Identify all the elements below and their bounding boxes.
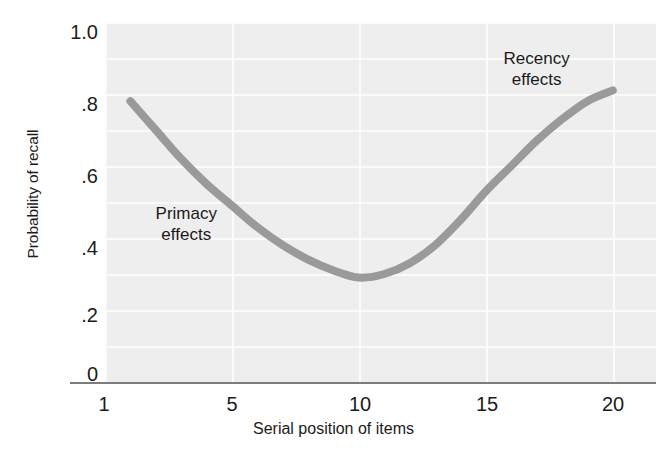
y-tick-label: .4 — [54, 238, 98, 258]
plot-area: Primacy effects Recency effects — [105, 22, 656, 382]
x-tick-label: 15 — [457, 392, 517, 416]
y-tick-label: 1.0 — [54, 22, 98, 42]
y-tick-label: .8 — [54, 94, 98, 114]
x-axis-line — [70, 382, 656, 384]
primacy-effects-annotation: Primacy effects — [126, 203, 246, 245]
x-tick-label: 20 — [583, 392, 643, 416]
y-tick-label: .2 — [54, 305, 98, 325]
recall-curve-path — [130, 90, 612, 277]
serial-position-curve-figure: Probability of recall 1.0 .8 .6 .4 .2 0 … — [0, 0, 667, 454]
recency-annotation-line2: effects — [477, 69, 597, 90]
primacy-annotation-line1: Primacy — [126, 203, 246, 224]
y-axis-tick-labels: 1.0 .8 .6 .4 .2 0 — [46, 0, 98, 454]
y-tick-label: 0 — [54, 364, 98, 384]
recency-annotation-line1: Recency — [477, 48, 597, 69]
primacy-annotation-line2: effects — [126, 224, 246, 245]
x-tick-label: 10 — [330, 392, 390, 416]
x-tick-label: 1 — [74, 392, 134, 416]
y-axis-title: Probability of recall — [24, 79, 42, 309]
recency-effects-annotation: Recency effects — [477, 48, 597, 90]
x-axis-title: Serial position of items — [0, 420, 667, 438]
x-axis-tick-labels: 1 5 10 15 20 — [0, 392, 667, 422]
y-tick-label: .6 — [54, 166, 98, 186]
x-tick-label: 5 — [202, 392, 262, 416]
